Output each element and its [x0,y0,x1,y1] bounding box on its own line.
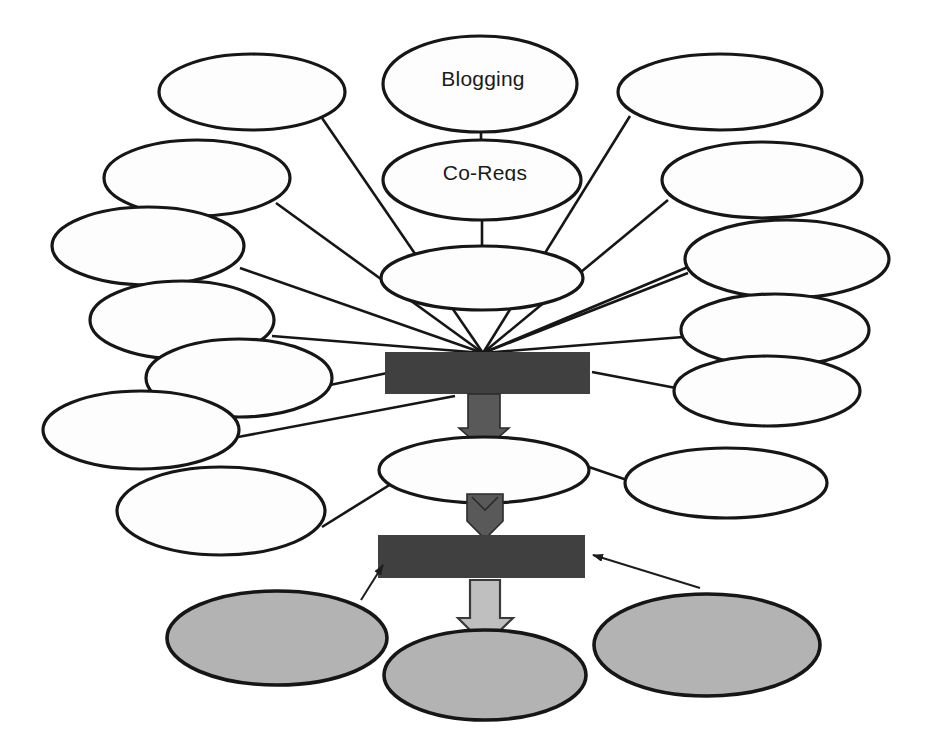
outcome-ellipse-center[interactable] [384,630,586,720]
spoke-ellipse-l2[interactable] [104,140,290,216]
bar-lower-shape[interactable] [378,535,585,578]
spoke-ellipse-group-right [618,54,889,518]
node-mid[interactable] [379,437,589,503]
spoke-ellipse-l3[interactable] [52,207,244,285]
arrow-mid-to-bar [467,494,503,539]
spoke-ellipse-r5[interactable] [674,356,860,426]
outcome-ellipse-left[interactable] [167,591,387,685]
spoke-ellipse-l1[interactable] [159,54,345,130]
feedback-arrow-left-line [361,565,383,600]
blogging-label: Blogging [441,67,524,90]
feedback-arrow-right [593,555,700,588]
outcome-ellipse-right[interactable] [594,594,820,696]
spoke-ellipse-l7[interactable] [117,467,325,555]
flow-diagram: Blogging Co-Regs [0,0,933,754]
node-co-regs[interactable]: Co-Regs [383,140,581,220]
feedback-arrow-left [361,565,383,600]
spoke-ellipse-r2[interactable] [662,142,862,218]
feedback-arrow-right-line [593,555,700,588]
diagram-canvas: Blogging Co-Regs [0,0,933,754]
spoke-ellipse-r6[interactable] [625,448,827,518]
spoke-ellipse-group-left [43,54,345,555]
hub-top-ellipse-shape[interactable] [381,246,583,310]
spoke-line-r5 [592,372,676,388]
bar-upper-shape[interactable] [385,352,590,394]
spoke-ellipse-r1[interactable] [618,54,822,130]
bar-upper[interactable] [385,352,590,394]
bar-lower[interactable] [378,535,585,578]
mid-ellipse-shape[interactable] [379,437,589,503]
node-blogging[interactable]: Blogging [383,36,577,132]
node-hub-top[interactable] [381,246,583,310]
spoke-ellipse-l6[interactable] [43,391,239,469]
spoke-ellipse-r3[interactable] [685,220,889,298]
co-regs-label: Co-Regs [443,161,527,184]
